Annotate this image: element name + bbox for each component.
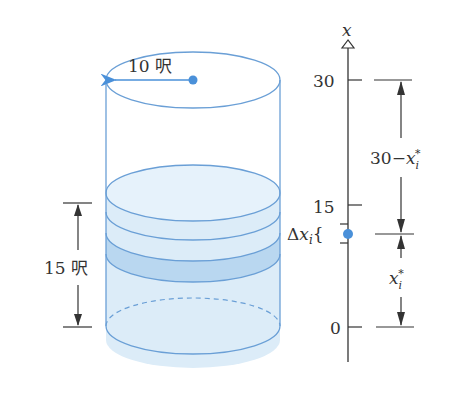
- axis-variable-label: x: [342, 20, 352, 40]
- x-axis: x 30 15 0: [313, 20, 362, 362]
- height-dimension: 15 呎: [44, 203, 92, 327]
- tick-label-15: 15: [313, 197, 335, 217]
- tick-label-0: 0: [330, 318, 341, 338]
- depth-dimensions: 30−xi* xi*: [370, 80, 421, 327]
- lower-depth-label: xi*: [389, 267, 404, 292]
- tank-diagram: 10 呎 15 呎 x 30 15 0 Δxi{: [0, 0, 452, 410]
- tick-label-30: 30: [313, 71, 335, 91]
- center-dot: [189, 76, 198, 85]
- radius-indicator: 10 呎: [115, 56, 198, 85]
- sample-point-dot: [343, 229, 353, 239]
- upper-depth-label: 30−xi*: [370, 147, 421, 172]
- height-label: 15 呎: [44, 258, 88, 278]
- svg-text:Δxi{: Δxi{: [287, 224, 324, 247]
- slice-thickness-label: Δxi{: [287, 224, 324, 247]
- radius-label: 10 呎: [128, 56, 172, 76]
